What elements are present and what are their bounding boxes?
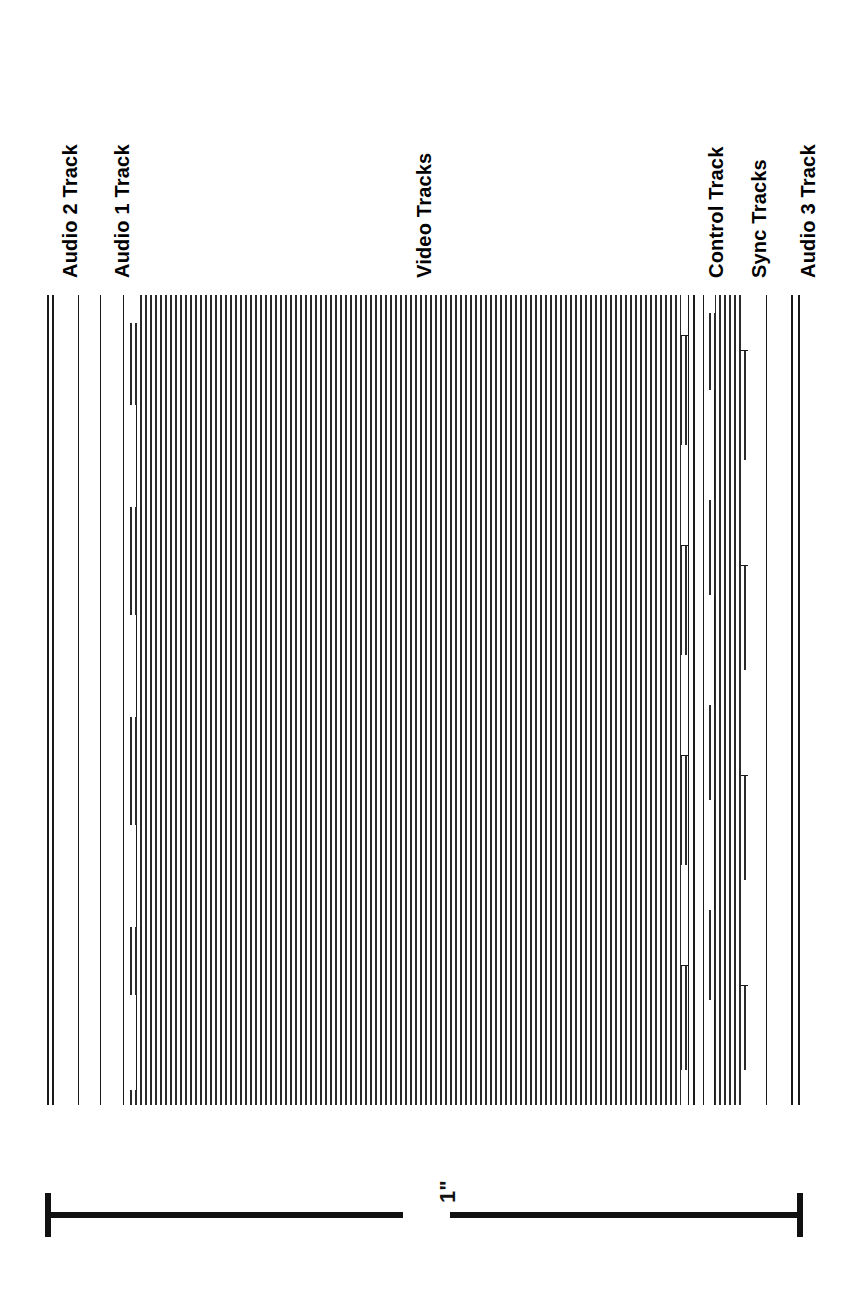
video-notch-rule-2 (136, 405, 137, 507)
width-dimension: 1" (0, 1185, 857, 1255)
video-notch-rule-3 (136, 615, 137, 717)
videotape-track-diagram: Audio 2 Track Audio 1 Track Video Tracks… (0, 0, 857, 1294)
dimension-tick-right (797, 1193, 803, 1237)
sync-notch-rule-r2 (741, 565, 748, 566)
sync-notch-rule-r1 (741, 350, 748, 351)
video-notch-rule-4 (136, 825, 137, 927)
sync-notch-rule-4 (714, 800, 715, 910)
edge-line-audio-3-right (791, 295, 793, 1105)
edge-line-tape-left (47, 295, 49, 1105)
sync-notch-r1 (741, 295, 748, 350)
dimension-rule-left (51, 1212, 403, 1218)
edge-line-audio-2-right (78, 295, 79, 1105)
edge-line-video-right (688, 295, 689, 1105)
sync-notch-rule-3 (714, 595, 715, 705)
sync-notch-r2 (741, 460, 748, 565)
track-label-video: Video Tracks (414, 153, 434, 278)
edge-line-audio-1-left (100, 295, 101, 1105)
track-label-audio-2: Audio 2 Track (60, 144, 80, 278)
sync-notch-rule-r4 (741, 985, 748, 986)
sync-notch-rule-r3 (741, 775, 748, 776)
video-tracks-hatch (130, 295, 688, 1105)
track-label-control: Control Track (706, 146, 726, 278)
edge-line-tape-right (798, 295, 800, 1105)
edge-line-control-left (693, 295, 695, 1105)
video-notch-1 (130, 295, 137, 323)
edge-line-audio-1-right (123, 295, 124, 1105)
edge-line-audio-3-left (766, 295, 767, 1105)
sync-notch-rule-5 (714, 1000, 715, 1105)
dimension-value: 1" (437, 1180, 459, 1203)
sync-notch-r5 (741, 1070, 748, 1105)
sync-notch-rule-2 (714, 390, 715, 500)
edge-line-control-right (703, 295, 704, 1105)
tape-body (0, 295, 857, 1105)
track-label-audio-3: Audio 3 Track (798, 144, 818, 278)
sync-notch-1 (709, 295, 715, 313)
track-label-audio-1: Audio 1 Track (112, 144, 132, 278)
dimension-rule-right (450, 1212, 800, 1218)
video-notch-rule-5 (136, 995, 137, 1090)
sync-notch-r3 (741, 670, 748, 775)
track-label-sync: Sync Tracks (749, 159, 769, 278)
edge-line-audio-2-left (52, 295, 54, 1105)
sync-notch-r4 (741, 880, 748, 985)
